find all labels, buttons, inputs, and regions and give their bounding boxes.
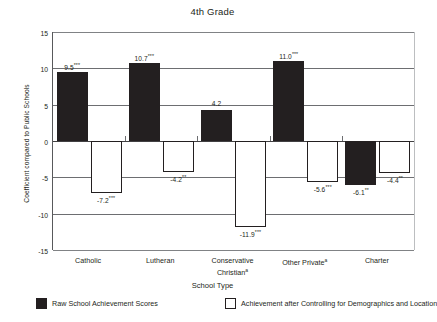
plot-area: 151050-5-10-159.5***-7.2***10.7***-4.2**… [52,32,415,250]
y-axis-tick-label: -5 [42,175,48,182]
bar-raw [129,63,160,141]
x-axis-tick-mark [270,136,271,141]
y-axis-tick-label: -15 [38,248,48,255]
legend-label: Raw School Achievement Scores [52,299,158,308]
legend-item[interactable]: Raw School Achievement Scores [36,298,158,309]
y-axis-tick-label: 15 [40,30,48,37]
x-axis-tick-mark [197,136,198,141]
x-axis-category-label: Charter [365,256,389,266]
chart-title: 4th Grade [0,6,425,17]
y-axis-tick-label: 5 [44,102,48,109]
y-axis-tick-label: 10 [40,66,48,73]
y-axis-tick-label: -10 [38,211,48,218]
gridline-10: 10 [53,68,414,69]
bar-controlled [163,141,194,172]
x-axis-category-label: Lutheran [146,256,174,266]
y-axis-title: Coefficient compared to Public Schools [23,34,30,254]
y-axis-tick-label: 0 [44,139,48,146]
bar-value-label: -11.9*** [240,229,261,238]
bar-value-label: 11.0*** [279,51,298,60]
bar-controlled [235,141,266,227]
x-axis-category-label: Other Privatea [282,256,327,268]
legend-label: Achievement after Controlling for Demogr… [241,299,437,308]
x-axis-tick-mark [342,136,343,141]
bar-value-label: -4.2** [170,174,186,183]
bar-controlled [307,141,338,182]
bar-raw [273,61,304,141]
bar-controlled [379,141,410,173]
bar-value-label: 10.7*** [135,53,155,62]
bar-value-label: -5.6*** [314,184,332,193]
gridline--10: -10 [53,214,414,215]
bar-raw [345,141,376,185]
x-axis-category-label: Catholic [75,256,101,266]
bar-raw [57,72,88,141]
bar-value-label: 4.2 [212,100,221,107]
bar-controlled [91,141,122,193]
gridline-5: 5 [53,105,414,106]
x-axis-title: School Type [0,281,425,290]
legend-swatch-filled [36,298,47,309]
gridline--15: -15 [53,250,414,251]
bar-value-label: -4.4** [387,175,403,184]
x-axis-category-label: ConservativeChristiana [212,256,254,277]
bar-value-label: -6.1** [353,187,369,196]
gridline-15: 15 [53,32,414,33]
chart-legend: Raw School Achievement ScoresAchievement… [0,298,425,314]
bar-raw [201,110,232,141]
bar-value-label: -7.2*** [97,195,115,204]
legend-item[interactable]: Achievement after Controlling for Demogr… [225,298,437,309]
bar-value-label: 9.5*** [64,62,80,71]
legend-swatch-hollow [225,298,236,309]
x-axis-tick-mark [125,136,126,141]
